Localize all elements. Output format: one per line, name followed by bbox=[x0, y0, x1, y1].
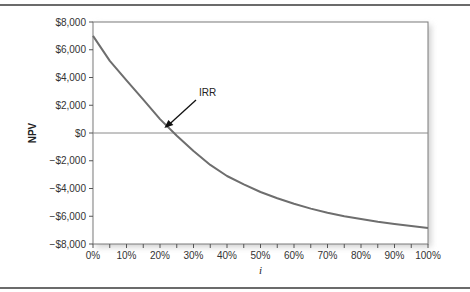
irr-label: IRR bbox=[199, 87, 216, 98]
y-tick-label: $4,000 bbox=[55, 72, 86, 83]
x-tick-label: 0% bbox=[86, 250, 101, 261]
x-tick-label: 40% bbox=[217, 250, 237, 261]
x-axis-title: i bbox=[259, 264, 262, 276]
x-tick-label: 80% bbox=[351, 250, 371, 261]
x-tick-label: 90% bbox=[384, 250, 404, 261]
y-axis-title: NPV bbox=[27, 122, 38, 143]
y-tick-label: −$8,000 bbox=[50, 239, 87, 250]
npv-chart: $8,000$6,000$4,000$2,000$0−$2,000−$4,000… bbox=[0, 0, 470, 292]
x-tick-label: 10% bbox=[116, 250, 136, 261]
x-tick-label: 100% bbox=[415, 250, 441, 261]
y-tick-label: $2,000 bbox=[55, 100, 86, 111]
y-tick-label: −$2,000 bbox=[50, 155, 87, 166]
bottom-rule bbox=[0, 287, 470, 289]
y-tick-label: $6,000 bbox=[55, 44, 86, 55]
x-tick-label: 50% bbox=[250, 250, 270, 261]
y-tick-label: $0 bbox=[75, 128, 87, 139]
y-tick-label: −$6,000 bbox=[50, 211, 87, 222]
x-tick-label: 70% bbox=[317, 250, 337, 261]
y-tick-label: −$4,000 bbox=[50, 183, 87, 194]
x-tick-label: 20% bbox=[150, 250, 170, 261]
y-tick-label: $8,000 bbox=[55, 17, 86, 28]
x-tick-label: 30% bbox=[183, 250, 203, 261]
x-tick-label: 60% bbox=[284, 250, 304, 261]
